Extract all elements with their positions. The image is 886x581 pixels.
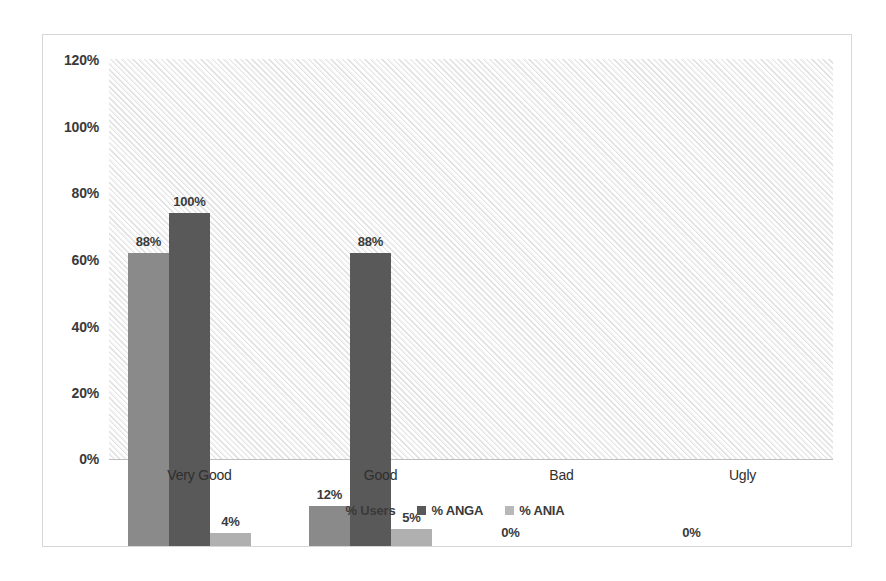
x-category-ugly: Ugly [652, 467, 833, 483]
value-label-good-anga: 88% [335, 234, 406, 249]
value-label-very-good-anga: 100% [154, 194, 225, 209]
bar-chart: 120% 100% 80% 60% 40% 20% 0% 88% 100% 4%… [0, 0, 886, 581]
y-tick-120: 120% [39, 52, 99, 68]
y-tick-80: 80% [39, 185, 99, 201]
bar-group-good: 12% 88% 5% [290, 146, 471, 546]
legend-item-ania[interactable]: % ANIA [505, 503, 564, 518]
chart-frame: 120% 100% 80% 60% 40% 20% 0% 88% 100% 4%… [42, 34, 852, 547]
legend-label-users: % Users [346, 503, 396, 518]
bar-good-ania[interactable] [391, 529, 432, 546]
bar-group-bad: 0% [471, 146, 652, 546]
legend-item-anga[interactable]: % ANGA [417, 503, 483, 518]
y-tick-60: 60% [39, 252, 99, 268]
x-category-bad: Bad [471, 467, 652, 483]
legend-label-ania: % ANIA [519, 503, 564, 518]
y-tick-40: 40% [39, 319, 99, 335]
legend-label-anga: % ANGA [431, 503, 483, 518]
legend-swatch-anga-icon [417, 506, 426, 515]
y-tick-100: 100% [39, 119, 99, 135]
bar-good-anga[interactable] [350, 253, 391, 546]
value-label-good-users: 12% [294, 487, 365, 502]
bar-very-good-users[interactable] [128, 253, 169, 546]
bar-very-good-ania[interactable] [210, 533, 251, 546]
legend-swatch-ania-icon [505, 506, 514, 515]
y-tick-20: 20% [39, 385, 99, 401]
value-label-bad-zero: 0% [475, 525, 546, 540]
bar-group-very-good: 88% 100% 4% [109, 146, 290, 546]
y-tick-0: 0% [39, 451, 99, 467]
legend-swatch-users-icon [332, 506, 341, 515]
x-category-very-good: Very Good [109, 467, 290, 483]
bar-very-good-anga[interactable] [169, 213, 210, 546]
x-category-good: Good [290, 467, 471, 483]
bar-group-ugly: 0% [652, 146, 833, 546]
legend-item-users[interactable]: % Users [332, 503, 396, 518]
value-label-very-good-users: 88% [113, 234, 184, 249]
value-label-ugly-zero: 0% [656, 525, 727, 540]
chart-legend: % Users % ANGA % ANIA [43, 503, 853, 518]
